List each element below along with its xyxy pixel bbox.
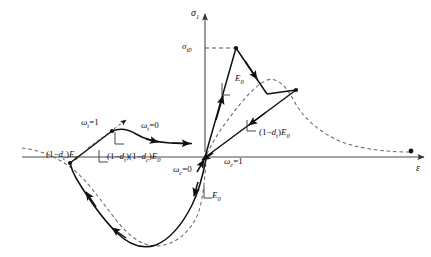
- slope-marker-E0-lower: [204, 186, 212, 198]
- label-damaged-compression-stiffness: (1−dc)E0: [46, 150, 78, 159]
- marker-tension-reload-peak: [110, 129, 114, 133]
- marker-axis-endpoint: [409, 149, 414, 154]
- sigma-t0-tick-label: σt0: [182, 42, 192, 51]
- arrow-tension-plateau-end: [172, 143, 190, 144]
- label-E0-lower: E0: [212, 191, 221, 200]
- label-E0-upper: E0: [235, 74, 244, 83]
- marker-tension-unload-start: [294, 88, 298, 92]
- y-axis-label: σ1: [191, 8, 199, 18]
- envelope-tension-branch: [207, 79, 410, 154]
- slope-triangle-markers: [99, 83, 256, 198]
- arrow-tension-unloading: [249, 113, 265, 125]
- tension-loop-solid: [205, 48, 296, 157]
- label-omega-c-zero: ωc=0: [173, 165, 192, 174]
- arrow-tension-loading: [216, 96, 223, 120]
- envelope-curve-dashed: [22, 79, 410, 246]
- arrow-compression-unloading: [86, 192, 96, 207]
- arrow-tension-softening: [245, 61, 257, 79]
- diagram-canvas: [0, 0, 431, 257]
- label-damaged-both-stiffness: (1−dt)(1−dc)E0: [107, 152, 161, 161]
- envelope-compression-branch: [22, 148, 206, 246]
- label-omega-t-zero: ωt=0: [141, 121, 159, 130]
- label-damaged-tension-stiffness: (1−dt)E0: [259, 128, 290, 137]
- x-axis-label: ε: [416, 163, 420, 173]
- stress-strain-diagram: σ1 ε σt0 E0 (1−dt)E0 E0 (1−dc)E0 (1−dt)(…: [0, 0, 431, 257]
- slope-marker-damaged-both: [115, 132, 124, 144]
- marker-compression-unload-start: [68, 161, 72, 165]
- marker-peak-tension: [234, 46, 238, 50]
- axis-group: [22, 14, 424, 157]
- label-omega-c-one: ωc=1: [224, 157, 243, 166]
- compression-loop-solid: [70, 129, 206, 246]
- label-omega-t-one: ωt=1: [81, 118, 99, 127]
- tension-reload-plateau-path: [112, 129, 192, 143]
